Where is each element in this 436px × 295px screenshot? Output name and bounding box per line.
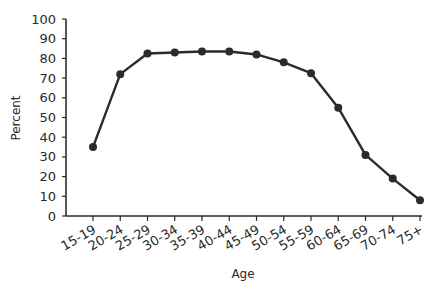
data-point xyxy=(389,175,397,183)
data-line xyxy=(93,52,420,201)
data-point xyxy=(362,151,370,159)
data-point xyxy=(280,58,288,66)
data-point xyxy=(116,70,124,78)
x-axis: 15-1920-2425-2930-3435-3940-4445-4950-54… xyxy=(58,216,425,253)
data-point xyxy=(198,48,206,56)
data-point xyxy=(144,49,152,57)
data-point xyxy=(253,50,261,58)
y-tick-label: 0 xyxy=(48,209,56,224)
y-tick-label: 90 xyxy=(39,31,56,46)
y-tick-label: 30 xyxy=(39,149,56,164)
data-series xyxy=(89,48,424,205)
data-point xyxy=(225,48,233,56)
y-tick-label: 10 xyxy=(39,189,56,204)
data-point xyxy=(416,196,424,204)
y-tick-label: 20 xyxy=(39,169,56,184)
y-tick-label: 40 xyxy=(39,130,56,145)
data-point xyxy=(307,69,315,77)
line-chart: 0102030405060708090100 15-1920-2425-2930… xyxy=(0,0,436,295)
y-tick-label: 80 xyxy=(39,51,56,66)
data-point xyxy=(334,104,342,112)
data-point xyxy=(89,143,97,151)
y-tick-label: 60 xyxy=(39,90,56,105)
x-tick-label: 75+ xyxy=(394,222,425,249)
y-tick-label: 70 xyxy=(39,71,56,86)
data-point xyxy=(171,48,179,56)
y-axis-title: Percent xyxy=(9,95,23,140)
y-tick-label: 100 xyxy=(31,12,56,27)
y-tick-label: 50 xyxy=(39,110,56,125)
y-axis: 0102030405060708090100 xyxy=(31,12,66,224)
x-axis-title: Age xyxy=(231,267,254,281)
